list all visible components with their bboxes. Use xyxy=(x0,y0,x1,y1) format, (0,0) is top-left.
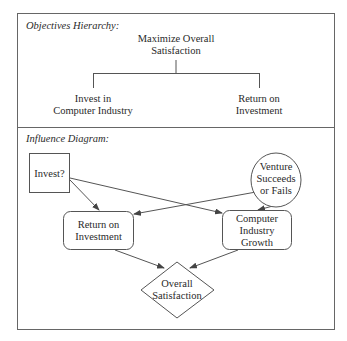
growth-node-line3: Growth xyxy=(241,237,274,248)
objectives-section-title: Objectives Hierarchy: xyxy=(26,20,119,31)
objective-root-line2: Satisfaction xyxy=(151,45,201,56)
value-node-line2: Satisfaction xyxy=(152,290,202,301)
arc-invest-to-growth xyxy=(70,178,222,213)
objective-child-invest-line1: Invest in xyxy=(75,93,112,104)
decision-node-invest: Invest? xyxy=(30,154,70,193)
arc-roi-to-satisfaction xyxy=(115,250,164,268)
objective-child-invest-line2: Computer Industry xyxy=(53,105,133,116)
growth-node-line2: Industry xyxy=(240,225,276,236)
chance-node-line2: Succeeds xyxy=(256,173,295,184)
roi-node-line2: Investment xyxy=(75,231,122,242)
arc-growth-to-satisfaction xyxy=(190,250,238,268)
objective-child-roi-line1: Return on xyxy=(238,93,280,104)
hierarchy-connectors xyxy=(94,60,260,88)
growth-node-line1: Computer xyxy=(236,213,278,224)
objective-root: Maximize Overall Satisfaction xyxy=(138,33,215,56)
intermediate-node-roi: Return on Investment xyxy=(64,212,134,250)
influence-diagram: Influence Diagram: Invest? Venture Succe… xyxy=(25,133,301,318)
objective-child-roi: Return on Investment xyxy=(236,93,283,116)
objective-child-roi-line2: Investment xyxy=(236,105,283,116)
roi-node-line1: Return on xyxy=(78,219,120,230)
objectives-hierarchy: Objectives Hierarchy: Maximize Overall S… xyxy=(26,20,282,116)
chance-node-line3: or Fails xyxy=(260,185,292,196)
objective-root-line1: Maximize Overall xyxy=(138,33,215,44)
chance-node-line1: Venture xyxy=(260,161,293,172)
value-node-satisfaction: Overall Satisfaction xyxy=(141,262,214,318)
influence-section-title: Influence Diagram: xyxy=(25,133,109,144)
arc-invest-to-roi xyxy=(70,180,99,210)
diagram-canvas: Objectives Hierarchy: Maximize Overall S… xyxy=(0,0,347,341)
intermediate-node-growth: Computer Industry Growth xyxy=(223,211,292,250)
objective-child-invest: Invest in Computer Industry xyxy=(53,93,133,116)
chance-node-venture: Venture Succeeds or Fails xyxy=(251,153,301,207)
decision-node-label: Invest? xyxy=(34,168,65,179)
value-node-line1: Overall xyxy=(161,278,193,289)
